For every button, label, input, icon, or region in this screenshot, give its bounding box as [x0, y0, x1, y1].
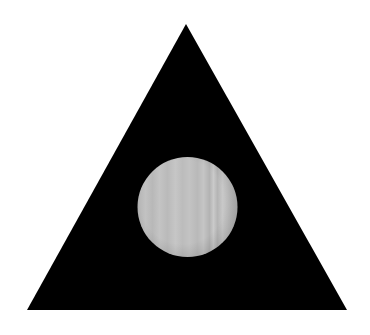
figure-canvas — [0, 0, 370, 335]
circle-edge-shading — [138, 157, 238, 257]
figure-svg — [0, 0, 370, 335]
